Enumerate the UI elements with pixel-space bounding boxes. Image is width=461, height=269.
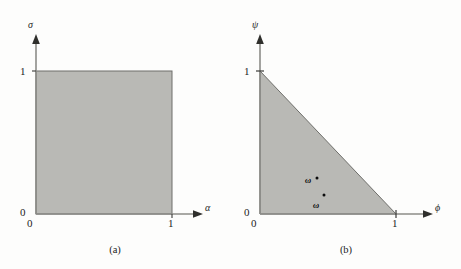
panel-b-y-tick-one-label: 1	[244, 66, 250, 77]
y-axis-arrowhead	[32, 34, 40, 44]
omega-point-1-marker	[316, 177, 319, 180]
panel-a-y-axis-label: σ	[28, 20, 33, 30]
unit-simplex-region	[260, 71, 396, 214]
omega-point-2-label: ω	[313, 201, 319, 210]
two-panel-figure: σ α 1 0 0 1 (a) ψ ϕ 1 0 0 1	[0, 0, 461, 269]
omega-point-1-label: ω	[305, 176, 311, 185]
panel-a-x-tick-zero-label: 0	[27, 218, 33, 229]
unit-square-region	[36, 71, 172, 214]
panel-b: ψ ϕ 1 0 0 1 ω ω (b)	[231, 0, 461, 269]
omega-point-2-marker	[323, 194, 326, 197]
panel-b-plot	[231, 0, 461, 269]
x-axis-arrowhead	[423, 210, 433, 218]
panel-a-x-axis-label: α	[205, 203, 210, 213]
panel-b-x-tick-zero-label: 0	[251, 218, 257, 229]
panel-a-y-tick-one-label: 1	[20, 66, 26, 77]
panel-a-y-tick-zero-label: 0	[20, 207, 26, 218]
x-axis-arrowhead	[193, 210, 203, 218]
panel-b-y-axis-label: ψ	[252, 20, 258, 30]
panel-b-y-tick-zero-label: 0	[244, 207, 250, 218]
y-axis-arrowhead	[256, 34, 264, 44]
panel-b-x-tick-one-label: 1	[392, 218, 398, 229]
panel-a-plot	[0, 0, 230, 269]
panel-b-caption: (b)	[231, 245, 461, 256]
panel-b-x-axis-label: ϕ	[435, 203, 440, 213]
panel-a-x-tick-one-label: 1	[168, 218, 174, 229]
panel-a: σ α 1 0 0 1 (a)	[0, 0, 230, 269]
panel-a-caption: (a)	[0, 245, 230, 256]
